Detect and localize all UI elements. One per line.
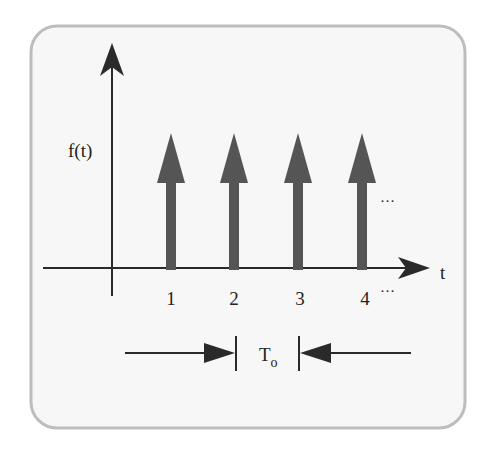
impulse-train-diagram: f(t) t 1 2 3 4 … … To <box>0 0 492 452</box>
tick-label: 2 <box>229 288 239 309</box>
tick-label: 1 <box>166 288 176 309</box>
period-label-main: T <box>259 344 271 365</box>
continuation-mark: … <box>380 189 395 205</box>
diagram-frame <box>31 26 465 428</box>
tick-label: 3 <box>295 288 305 309</box>
continuation-mark: … <box>380 279 395 295</box>
period-label-subscript: o <box>271 355 278 370</box>
x-axis-label: t <box>440 262 446 283</box>
y-axis-label: f(t) <box>68 140 92 162</box>
tick-label: 4 <box>360 288 370 309</box>
